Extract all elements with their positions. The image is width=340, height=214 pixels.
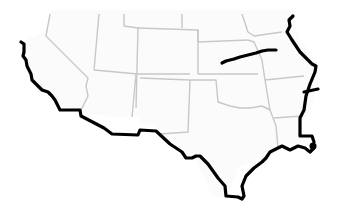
delta-marker — [310, 143, 317, 150]
us-map — [0, 0, 340, 214]
map-container — [0, 0, 340, 214]
land-area — [22, 10, 320, 198]
